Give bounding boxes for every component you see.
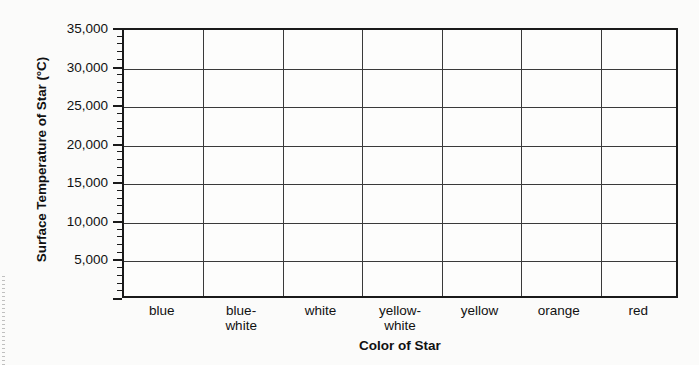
- y-axis-minor-tick: [117, 252, 122, 253]
- y-axis-tick-label: 10,000: [67, 213, 108, 228]
- y-axis-minor-tick: [117, 121, 122, 122]
- y-axis-tick-label: 20,000: [67, 136, 108, 151]
- y-axis-minor-tick: [117, 236, 122, 237]
- x-axis-category-label: red: [599, 302, 678, 338]
- y-axis-major-tick: [113, 182, 122, 184]
- y-axis-minor-tick: [117, 175, 122, 176]
- y-axis-minor-tick: [117, 267, 122, 268]
- y-axis-minor-tick: [117, 43, 122, 44]
- y-axis-minor-tick: [117, 136, 122, 137]
- y-axis-minor-tick: [117, 128, 122, 129]
- y-axis-major-tick: [113, 105, 122, 107]
- x-axis-category-label: yellow: [440, 302, 519, 338]
- y-axis-minor-tick: [117, 275, 122, 276]
- y-axis-minor-tick: [117, 198, 122, 199]
- y-axis-minor-tick: [117, 82, 122, 83]
- plot-area: [122, 28, 678, 298]
- y-axis-minor-tick: [117, 244, 122, 245]
- y-axis-tick-labels: 35,00030,00025,00020,00015,00010,0005,00…: [24, 0, 108, 365]
- y-axis-minor-tick: [117, 290, 122, 291]
- horizontal-gridline: [124, 107, 676, 108]
- y-axis-minor-tick: [117, 213, 122, 214]
- y-axis-tick-label: 15,000: [67, 175, 108, 190]
- x-axis-category-labels: blueblue-whitewhiteyellow-whiteyellowora…: [122, 302, 678, 338]
- vertical-gridline: [442, 30, 443, 296]
- category-label-line: yellow-: [360, 303, 439, 318]
- x-axis-category-label: blue-white: [201, 302, 280, 338]
- y-axis-minor-tick: [117, 59, 122, 60]
- y-axis-minor-tick: [117, 151, 122, 152]
- y-axis-major-tick: [113, 28, 122, 30]
- y-axis-major-tick: [113, 298, 122, 300]
- chart-page: Surface Temperature of Star (°C) 35,0003…: [0, 0, 699, 365]
- x-axis-category-label: blue: [122, 302, 201, 338]
- y-axis-minor-tick: [117, 229, 122, 230]
- y-axis-minor-tick: [117, 190, 122, 191]
- vertical-gridline: [283, 30, 284, 296]
- category-label-line: blue-: [201, 303, 280, 318]
- category-label-line: red: [599, 303, 678, 318]
- y-axis-major-tick: [113, 259, 122, 261]
- x-axis-category-label: yellow-white: [360, 302, 439, 338]
- x-axis-category-label: white: [281, 302, 360, 338]
- y-axis-minor-tick: [117, 74, 122, 75]
- x-axis-category-label: orange: [519, 302, 598, 338]
- category-label-line: blue: [122, 303, 201, 318]
- y-axis-tick-label: 30,000: [67, 59, 108, 74]
- y-axis-major-tick: [113, 221, 122, 223]
- y-axis-minor-tick: [117, 283, 122, 284]
- y-axis-minor-tick: [117, 205, 122, 206]
- y-axis-tick-label: 25,000: [67, 98, 108, 113]
- vertical-gridline: [601, 30, 602, 296]
- vertical-gridline: [203, 30, 204, 296]
- category-label-line: yellow: [440, 303, 519, 318]
- horizontal-gridline: [124, 223, 676, 224]
- category-label-line: white: [360, 318, 439, 333]
- y-axis-minor-tick: [117, 90, 122, 91]
- horizontal-gridline: [124, 69, 676, 70]
- category-label-line: orange: [519, 303, 598, 318]
- y-axis-major-tick: [113, 144, 122, 146]
- y-axis-minor-tick: [117, 167, 122, 168]
- y-axis-minor-tick: [117, 97, 122, 98]
- horizontal-gridline: [124, 146, 676, 147]
- category-label-line: white: [201, 318, 280, 333]
- vertical-gridline: [521, 30, 522, 296]
- y-axis-minor-tick: [117, 159, 122, 160]
- y-axis-minor-tick: [117, 113, 122, 114]
- y-axis-tick-label: 5,000: [74, 252, 108, 267]
- scan-artifact: [2, 276, 5, 365]
- vertical-gridline: [362, 30, 363, 296]
- x-axis-title: Color of Star: [122, 338, 678, 353]
- category-label-line: white: [281, 303, 360, 318]
- horizontal-gridline: [124, 184, 676, 185]
- y-axis-minor-tick: [117, 36, 122, 37]
- horizontal-gridline: [124, 261, 676, 262]
- y-axis-tick-label: 35,000: [67, 21, 108, 36]
- y-axis-major-tick: [113, 67, 122, 69]
- y-axis-minor-tick: [117, 51, 122, 52]
